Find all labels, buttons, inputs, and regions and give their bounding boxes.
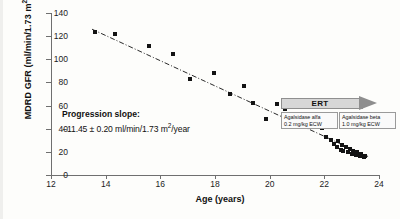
data-point xyxy=(242,84,246,88)
data-point xyxy=(93,30,97,34)
ert-drug-dose: 0.2 mg/kg ECW xyxy=(284,121,335,128)
data-point xyxy=(188,77,192,81)
ert-annotation: ERT Agalsidase alfa0.2 mg/kg ECWAgalsida… xyxy=(281,97,399,129)
ert-label: ERT xyxy=(289,98,351,109)
y-axis-title-superscript: 2 xyxy=(21,0,28,4)
y-axis-title: MDRD GFR (ml/min/1.73 m2) xyxy=(21,0,33,143)
x-tick-label: 22 xyxy=(312,180,336,189)
plot-area xyxy=(51,13,379,175)
y-axis-title-main: MDRD GFR (ml/min/1.73 m xyxy=(23,4,33,120)
ert-drug-dose: 1.0 mg/kg ECW xyxy=(342,121,393,128)
scan-edge-artifact xyxy=(0,0,3,219)
arrow-right-icon xyxy=(359,96,377,110)
slope-value: −11.45 ± 0.20 ml/min/1.73 m2/year xyxy=(62,120,232,135)
data-point xyxy=(212,71,216,75)
data-point xyxy=(251,101,255,105)
trend-line-svg xyxy=(51,13,379,175)
chart-figure: MDRD GFR (ml/min/1.73 m2) Age (years) 02… xyxy=(0,0,400,219)
ert-arrow-wrapper: ERT xyxy=(281,97,396,111)
regression-trend-line xyxy=(51,13,379,175)
slope-value-tail: /year xyxy=(171,124,190,134)
data-point xyxy=(113,32,117,36)
data-point xyxy=(171,52,175,56)
x-tick-label: 14 xyxy=(94,180,118,189)
slope-title: Progression slope: xyxy=(62,108,232,120)
data-point xyxy=(324,135,328,139)
x-tick-label: 12 xyxy=(39,180,63,189)
slope-value-main: −11.45 ± 0.20 ml/min/1.73 m xyxy=(62,124,168,134)
x-tick-label: 18 xyxy=(203,180,227,189)
x-axis-title: Age (years) xyxy=(140,194,300,204)
ert-drug-name: Agalsidase beta xyxy=(342,114,393,121)
ert-treatment-box: Agalsidase alfa0.2 mg/kg ECW xyxy=(281,112,338,129)
progression-slope-annotation: Progression slope: −11.45 ± 0.20 ml/min/… xyxy=(62,108,232,135)
data-point xyxy=(363,154,367,158)
ert-treatment-boxes: Agalsidase alfa0.2 mg/kg ECWAgalsidase b… xyxy=(281,112,399,129)
data-point xyxy=(228,92,232,96)
x-tick-label: 20 xyxy=(258,180,282,189)
ert-drug-name: Agalsidase alfa xyxy=(284,114,335,121)
x-tick-label: 16 xyxy=(148,180,172,189)
ert-treatment-box: Agalsidase beta1.0 mg/kg ECW xyxy=(339,112,396,129)
x-tick-label: 24 xyxy=(367,180,391,189)
data-point xyxy=(147,44,151,48)
data-point xyxy=(264,117,268,121)
data-point xyxy=(275,102,279,106)
